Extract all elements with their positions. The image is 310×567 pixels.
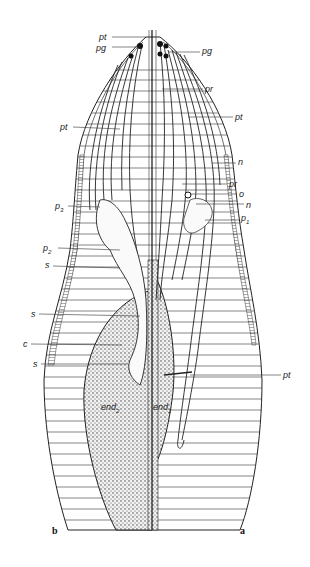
label-text: s xyxy=(33,359,38,369)
structure-label: pg xyxy=(202,47,212,56)
structure-label: pr xyxy=(205,85,213,94)
structure-label: pg xyxy=(96,44,106,53)
label-text: pt xyxy=(60,122,68,132)
label-text: pg xyxy=(96,43,106,53)
structure-label: pt xyxy=(99,33,107,42)
structure-label: end1 xyxy=(153,403,171,414)
structure-label: p1 xyxy=(241,214,249,225)
label-subscript: 1 xyxy=(246,219,249,225)
structure-label: pr xyxy=(229,180,237,189)
label-text: o xyxy=(239,189,244,199)
anatomical-diagram xyxy=(0,0,310,567)
panel-label-b: b xyxy=(52,525,58,536)
label-subscript: 2 xyxy=(48,249,51,255)
label-text: n xyxy=(246,200,251,210)
structure-label: s xyxy=(45,261,50,270)
label-subscript: 2 xyxy=(116,408,119,414)
label-subscript: 1 xyxy=(168,408,171,414)
label-text: n xyxy=(238,157,243,167)
structure-label: p2 xyxy=(43,244,51,255)
structure-label: n xyxy=(238,158,243,167)
label-subscript: 3 xyxy=(60,207,63,213)
label-text: s xyxy=(45,260,50,270)
label-text: c xyxy=(23,339,28,349)
structure-label: n xyxy=(246,201,251,210)
structure-label: o xyxy=(239,190,244,199)
structure-label: pt xyxy=(60,123,68,132)
structure-label: pt xyxy=(235,113,243,122)
label-text: pr xyxy=(205,84,213,94)
label-text: end xyxy=(153,402,168,412)
structure-label: p3 xyxy=(55,202,63,213)
structure-label: c xyxy=(23,340,28,349)
label-text: pt xyxy=(99,32,107,42)
structure-label: s xyxy=(31,310,36,319)
structure-label: s xyxy=(33,360,38,369)
label-text: pt xyxy=(235,112,243,122)
label-text: pt xyxy=(283,370,291,380)
label-text: s xyxy=(31,309,36,319)
label-text: end xyxy=(101,402,116,412)
label-text: pr xyxy=(229,179,237,189)
label-text: pg xyxy=(202,46,212,56)
panel-label-a: a xyxy=(240,525,245,536)
structure-label: pt xyxy=(283,371,291,380)
central-column xyxy=(148,260,158,530)
structure-label: end2 xyxy=(101,403,119,414)
